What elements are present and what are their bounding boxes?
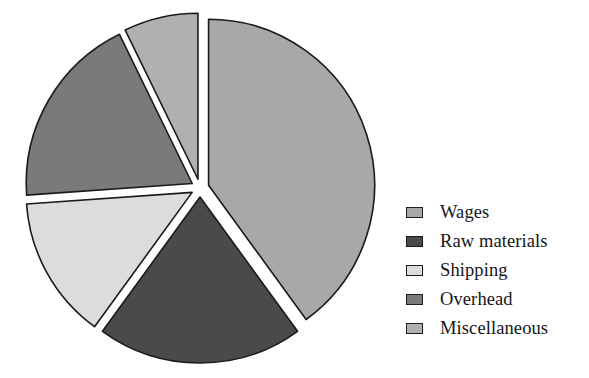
legend-item-wages[interactable]: Wages [406,200,589,224]
pie-plot-area [0,0,400,378]
legend-swatch-shipping [406,265,423,276]
legend-swatch-overhead [406,294,423,305]
pie-svg [0,0,400,378]
legend-swatch-miscellaneous [406,323,423,334]
legend-item-overhead[interactable]: Overhead [406,287,589,311]
legend-item-raw-materials[interactable]: Raw materials [406,229,589,253]
pie-chart-figure: Wages Raw materials Shipping Overhead Mi… [0,0,589,378]
pie-slice-group [26,13,374,363]
legend-label-raw-materials: Raw materials [440,231,548,251]
chart-legend: Wages Raw materials Shipping Overhead Mi… [406,200,589,340]
legend-swatch-wages [406,207,423,218]
legend-item-miscellaneous[interactable]: Miscellaneous [406,316,589,340]
legend-label-overhead: Overhead [440,289,513,309]
legend-label-wages: Wages [440,202,489,222]
legend-item-shipping[interactable]: Shipping [406,258,589,282]
legend-swatch-raw-materials [406,236,423,247]
legend-label-miscellaneous: Miscellaneous [440,318,548,338]
legend-label-shipping: Shipping [440,260,508,280]
